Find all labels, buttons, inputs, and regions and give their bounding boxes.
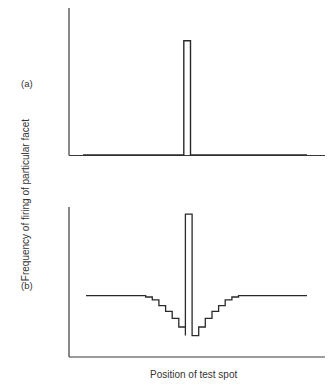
panel-a-response-trace xyxy=(83,41,307,155)
panel-b-label: (b) xyxy=(21,280,33,291)
panel-a-label: (a) xyxy=(21,78,33,89)
panel-b xyxy=(69,207,325,357)
figure-canvas xyxy=(0,0,336,390)
y-axis-label: Frequency of firing of particular facet xyxy=(20,119,31,281)
x-axis-label: Position of test spot xyxy=(150,369,237,380)
panel-a xyxy=(69,8,325,156)
panel-b-response-trace xyxy=(86,214,307,336)
